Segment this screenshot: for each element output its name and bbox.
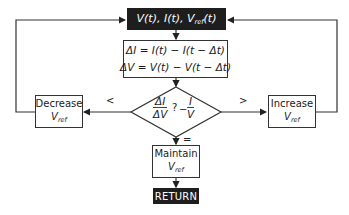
compare-operator: ? <box>172 102 177 113</box>
edge-label-equal: = <box>183 134 191 145</box>
compute-delta-node: ΔI = I(t) − I(t − Δt) ΔV = V(t) − V(t − … <box>123 40 228 78</box>
start-node-label: V(t), I(t), Vref(t) <box>137 12 217 26</box>
edge-label-greater: > <box>239 95 247 106</box>
decrease-var: Vref <box>51 110 67 127</box>
decision-node: ΔI ΔV ? − I V <box>131 87 221 137</box>
maintain-var: Vref <box>168 160 184 177</box>
decrease-label: Decrease <box>36 97 83 110</box>
decrease-vref-node: Decrease Vref <box>35 95 83 128</box>
maintain-vref-node: Maintain Vref <box>152 145 200 178</box>
return-label: RETURN <box>155 191 197 202</box>
maintain-label: Maintain <box>154 147 197 160</box>
delta-v-formula: ΔV = V(t) − V(t − Δt) <box>120 59 231 76</box>
return-node: RETURN <box>153 188 199 204</box>
increase-vref-node: Increase Vref <box>268 95 316 128</box>
edge-label-less: < <box>106 95 114 106</box>
increase-var: Vref <box>284 110 300 127</box>
start-node-inputs: V(t), I(t), Vref(t) <box>127 8 226 30</box>
lhs-fraction: ΔI ΔV <box>153 95 167 120</box>
delta-i-formula: ΔI = I(t) − I(t − Δt) <box>126 42 225 59</box>
rhs-fraction: I V <box>187 95 194 120</box>
increase-label: Increase <box>271 97 313 110</box>
